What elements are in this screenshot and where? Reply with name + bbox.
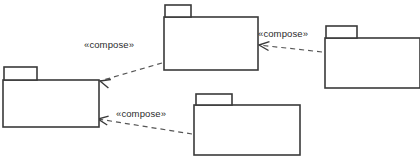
package-top-right-tab <box>326 26 357 38</box>
dependency-top-center-to-left-label: «compose» <box>84 39 134 50</box>
dependency-top-right-to-top-center-label: «compose» <box>258 28 308 39</box>
package-left-tab <box>4 67 37 80</box>
package-top-center-body <box>164 17 258 70</box>
package-bottom-center-body <box>194 105 300 155</box>
package-top-right-body <box>325 38 420 88</box>
dependency-top-center-to-left[interactable] <box>100 63 162 88</box>
dependency-top-right-to-top-center[interactable] <box>259 42 322 52</box>
package-left-body <box>3 80 99 127</box>
package-top-center-tab <box>165 5 191 17</box>
dependency-top-center-to-left-arrowhead <box>100 79 111 88</box>
package-top-right[interactable] <box>325 26 420 88</box>
package-top-center[interactable] <box>164 5 258 70</box>
dependency-bottom-center-to-left-label: «compose» <box>116 108 166 119</box>
dependency-bottom-center-to-left-line <box>98 119 192 134</box>
package-bottom-center[interactable] <box>194 94 300 155</box>
dependency-top-center-to-left-line <box>100 63 162 81</box>
uml-package-diagram: «compose»«compose»«compose» <box>0 0 420 166</box>
package-bottom-center-tab <box>196 94 232 105</box>
package-left[interactable] <box>3 67 99 127</box>
diagram-canvas-svg: «compose»«compose»«compose» <box>0 0 420 166</box>
package-layer <box>3 5 420 155</box>
dependency-top-right-to-top-center-line <box>259 45 322 52</box>
